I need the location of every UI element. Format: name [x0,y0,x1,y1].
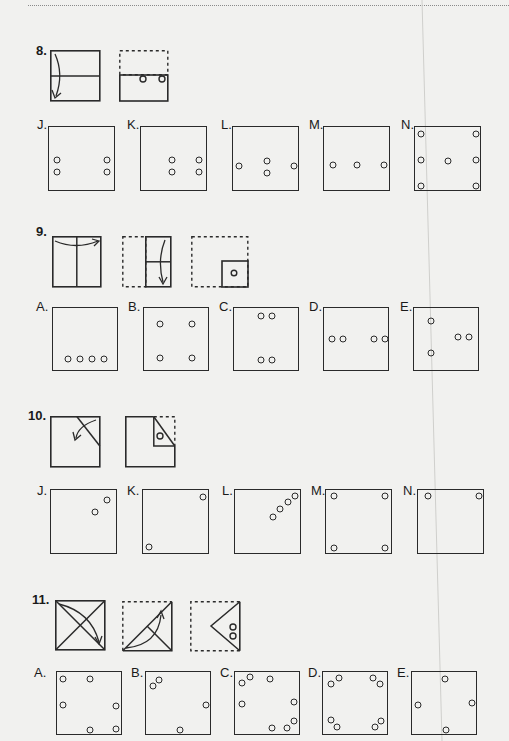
problem-10-option-j[interactable] [50,489,117,554]
problem-8-option-j-label: J. [37,118,47,131]
hole-icon [291,699,298,706]
hole-icon [330,162,337,169]
problem-10-option-k[interactable] [142,489,209,554]
problem-9-option-a[interactable] [52,307,118,371]
hole-icon [334,724,341,731]
hole-icon [89,356,96,363]
hole-icon [54,169,61,176]
hole-icon [239,680,246,687]
problem-11-step-1-fold-diagonal [55,600,107,652]
hole-icon [258,357,265,364]
problem-11-option-d-label: D. [308,666,321,679]
hole-icon [336,675,343,682]
problem-11-number: 11. [32,593,49,606]
problem-10-option-k-label: K. [127,484,139,497]
problem-8-option-n[interactable] [414,126,481,191]
hole-icon [476,493,483,500]
problem-10-option-l[interactable] [234,489,301,554]
hole-icon [473,131,480,138]
problem-8-option-m[interactable] [323,126,390,191]
problem-9-option-d[interactable] [323,307,389,371]
problem-10-option-j-label: J. [37,484,47,497]
problem-9-option-c-label: C. [219,300,232,313]
hole-icon [189,321,196,328]
problem-11-option-c-label: C. [220,666,233,679]
problem-8-step-2-punched [119,50,171,102]
hole-icon [269,313,276,320]
hole-icon [54,157,61,164]
problem-11-option-e[interactable] [411,671,477,735]
hole-icon [270,514,277,521]
hole-icon [418,183,425,190]
hole-icon [146,544,153,551]
hole-icon [466,334,473,341]
hole-icon [267,676,274,683]
hole-icon [169,157,176,164]
problem-8-option-j[interactable] [48,126,115,191]
problem-8-number: 8. [36,44,47,57]
problem-9-option-b[interactable] [143,307,209,371]
hole-icon [113,703,120,710]
hole-icon [264,170,271,177]
hole-icon [428,318,435,325]
hole-icon [370,675,377,682]
hole-icon [382,545,389,552]
hole-icon [418,157,425,164]
hole-icon [104,497,111,504]
problem-10-option-n-label: N. [403,484,416,497]
hole-icon [469,700,476,707]
problem-11-step-3-punched [190,601,242,653]
hole-icon [372,724,379,731]
hole-icon [381,162,388,169]
problem-11-option-c[interactable] [234,671,300,735]
hole-icon [378,718,385,725]
problem-10-option-m[interactable] [325,489,392,554]
hole-icon [277,506,284,513]
problem-9-option-c[interactable] [233,307,299,371]
hole-icon [445,158,452,165]
problem-8-option-k-label: K. [127,118,139,131]
hole-icon [65,356,72,363]
problem-10-option-l-label: L. [222,484,233,497]
problem-9-step-2-fold-top-down [122,236,174,288]
hole-icon [415,702,422,709]
hole-icon [331,493,338,500]
problem-8-option-n-label: N. [401,118,414,131]
problem-10-option-n[interactable] [417,489,484,554]
hole-icon [291,718,298,725]
hole-icon [87,727,94,734]
problem-9-option-a-label: A. [36,300,48,313]
problem-9-option-e[interactable] [413,307,479,371]
hole-icon [428,350,435,357]
problem-10-step-1-fold-corner [50,416,102,468]
problem-11-option-b[interactable] [145,671,211,735]
problem-11-step-2-fold-diagonal-again [122,601,174,653]
hole-icon [329,336,336,343]
hole-icon [264,158,271,165]
problem-9-number: 9. [36,225,47,238]
problem-10-number: 10. [28,409,46,422]
problem-8-option-k[interactable] [140,126,207,191]
problem-8-option-l[interactable] [232,126,299,191]
hole-icon [258,313,265,320]
problem-11-option-a[interactable] [56,671,122,735]
hole-icon [200,494,207,501]
problem-9-step-3-punched [191,236,251,288]
problem-11-option-d[interactable] [322,671,388,735]
hole-icon [177,727,184,734]
hole-icon [269,725,276,732]
hole-icon [292,493,299,500]
hole-icon [377,681,384,688]
hole-icon [236,163,243,170]
problem-8-step-1-fold-top-down [50,50,102,102]
hole-icon [371,336,378,343]
hole-icon [443,727,450,734]
hole-icon [169,169,176,176]
hole-icon [442,676,449,683]
hole-icon [382,493,389,500]
hole-icon [157,355,164,362]
hole-icon [203,702,210,709]
hole-icon [113,726,120,733]
top-dotted-rule [28,5,509,6]
problem-8-option-m-label: M. [309,118,323,131]
